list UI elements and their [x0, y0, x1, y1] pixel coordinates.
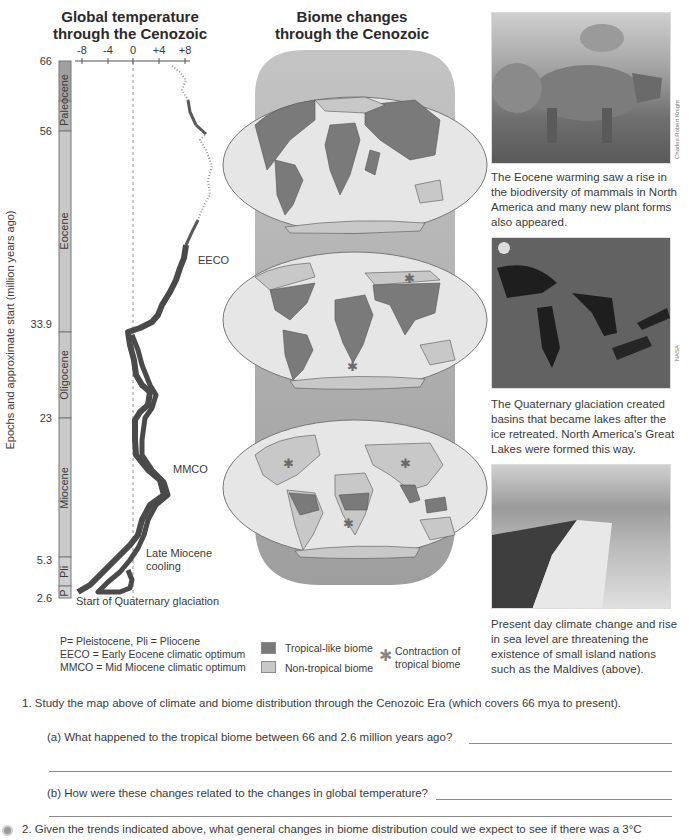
biome-title: Biome changes through the Cenozoic: [252, 8, 452, 42]
question-1a: (a) What happened to the tropical biome …: [47, 731, 452, 743]
answer-line-1b-1[interactable]: [436, 799, 672, 800]
question-2: 2. Given the trends indicated above, wha…: [22, 823, 642, 835]
map-early-cenozoic: [223, 97, 487, 234]
legend-contraction-line1: Contraction of: [395, 645, 460, 658]
answer-line-1a-2[interactable]: [49, 771, 672, 772]
challenge-question-icon: [2, 825, 13, 836]
question-1b: (b) How were these changes related to th…: [47, 787, 428, 799]
epoch-miocene: Miocene: [58, 467, 70, 509]
x-tick: +8: [179, 44, 192, 56]
annotation-late-miocene-cooling: cooling: [146, 560, 181, 572]
answer-line-1b-2[interactable]: [49, 816, 672, 817]
biome-title-line1: Biome changes: [252, 8, 452, 25]
map-mid-cenozoic: ✱ ✱: [223, 252, 487, 389]
photo-great-lakes: [491, 237, 671, 389]
question-1: 1. Study the map above of climate and bi…: [22, 697, 621, 709]
temperature-trace: [78, 66, 212, 592]
photo-credit-knight: Charles Robert Knight: [674, 100, 680, 159]
epoch-paleocene: Paleocene: [58, 74, 70, 126]
answer-line-1a-1[interactable]: [469, 743, 672, 744]
y-tick: 23: [40, 412, 52, 424]
legend-tropical-label: Tropical-like biome: [285, 642, 373, 655]
epoch-oligocene: Oligocene: [58, 350, 70, 400]
contraction-icon: ✱: [400, 456, 411, 471]
photo-eocene-mammal: [491, 12, 671, 164]
epoch-eocene: Eocene: [58, 212, 70, 249]
caption-eocene: The Eocene warming saw a rise in the bio…: [491, 170, 681, 230]
caption-quaternary: The Quaternary glaciation created basins…: [491, 397, 681, 457]
legend-abbrev-p-pli: P= Pleistocene, Pli = Pliocene: [60, 635, 246, 648]
legend-non-tropical-label: Non-tropical biome: [285, 662, 373, 675]
y-tick: 2.6: [37, 592, 52, 604]
annotation-mmco: MMCO: [173, 463, 208, 475]
contraction-icon: ✱: [343, 516, 354, 531]
y-axis-ticks: 66 56 33.9 23 5.3 2.6: [31, 55, 52, 604]
y-tick: 5.3: [37, 554, 52, 566]
caption-maldives: Present day climate change and rise in s…: [491, 617, 681, 677]
annotation-quaternary: Start of Quaternary glaciation: [76, 595, 219, 607]
contraction-legend-icon: ✱: [379, 646, 392, 665]
legend-abbrev-eeco: EECO = Early Eocene climatic optimum: [60, 648, 246, 661]
swatch-non-tropical: [261, 661, 276, 673]
contraction-icon: ✱: [404, 271, 415, 286]
biome-maps-panel: ✱ ✱ ✱ ✱ ✱: [215, 45, 495, 590]
legend-contraction-label: Contraction of tropical biome: [395, 645, 460, 671]
y-tick: 66: [40, 55, 52, 67]
x-tick: -4: [103, 44, 113, 56]
y-tick: 56: [40, 125, 52, 137]
contraction-icon: ✱: [347, 359, 358, 374]
legend-abbrev-mmco: MMCO = Mid Miocene climatic optimum: [60, 661, 246, 674]
legend-contraction-line2: tropical biome: [395, 658, 460, 671]
epoch-pleistocene: P: [58, 589, 70, 596]
contraction-icon: ✱: [283, 456, 294, 471]
swatch-tropical: [261, 642, 276, 654]
y-axis-label: Epochs and approximate start (million ye…: [4, 210, 16, 449]
x-tick: +4: [153, 44, 166, 56]
photo-maldives: [491, 464, 671, 609]
y-tick: 33.9: [31, 318, 52, 330]
photo-credit-nasa: NASA: [674, 345, 680, 361]
biome-title-line2: through the Cenozoic: [252, 25, 452, 42]
abbreviation-legend: P= Pleistocene, Pli = Pliocene EECO = Ea…: [60, 635, 246, 674]
epoch-pliocene: Pli: [58, 566, 70, 578]
annotation-late-miocene: Late Miocene: [146, 547, 212, 559]
x-tick: -8: [77, 44, 87, 56]
temperature-chart: Epochs and approximate start (million ye…: [0, 0, 230, 620]
epoch-bar: Paleocene Eocene Oligocene Miocene Pli P: [58, 61, 71, 598]
x-tick: 0: [130, 44, 136, 56]
